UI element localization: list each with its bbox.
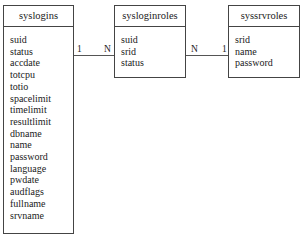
entity-sysloginroles: sysloginroles suid srid status: [114, 5, 186, 78]
entity-title: sysloginroles: [115, 6, 185, 27]
field: dbname: [10, 128, 73, 140]
field: fullname: [10, 198, 73, 210]
relationship-line-sysloginroles-syssrvroles: [186, 55, 228, 56]
cardinality-label: 1: [222, 44, 227, 54]
relationship-line-syslogins-sysloginroles: [74, 55, 114, 56]
field: password: [10, 151, 73, 163]
field: suid: [121, 34, 185, 46]
entity-title: syslogins: [4, 6, 73, 27]
cardinality-label: N: [191, 44, 198, 54]
entity-title: syssrvroles: [229, 6, 299, 27]
entity-fields: srid name password: [229, 27, 299, 69]
field: name: [10, 139, 73, 151]
field: password: [235, 57, 299, 69]
field: srid: [235, 34, 299, 46]
field: audflags: [10, 186, 73, 198]
field: spacelimit: [10, 93, 73, 105]
field: accdate: [10, 57, 73, 69]
field: srid: [121, 46, 185, 58]
field: srvname: [10, 210, 73, 222]
field: status: [10, 46, 73, 58]
field: resultlimit: [10, 116, 73, 128]
field: pwdate: [10, 174, 73, 186]
entity-fields: suid srid status: [115, 27, 185, 69]
field: totio: [10, 81, 73, 93]
field: status: [121, 57, 185, 69]
field: language: [10, 163, 73, 175]
field: totcpu: [10, 69, 73, 81]
cardinality-label: 1: [77, 44, 82, 54]
field: suid: [10, 34, 73, 46]
field: name: [235, 46, 299, 58]
field: timelimit: [10, 104, 73, 116]
entity-syslogins: syslogins suid status accdate totcpu tot…: [3, 5, 74, 234]
entity-syssrvroles: syssrvroles srid name password: [228, 5, 300, 78]
cardinality-label: N: [104, 44, 111, 54]
entity-fields: suid status accdate totcpu totio spaceli…: [4, 27, 73, 221]
